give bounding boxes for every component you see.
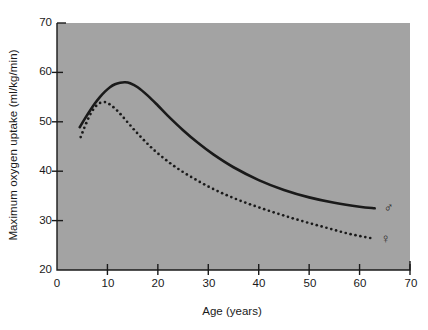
plot-area-background bbox=[57, 23, 410, 270]
chart-figure: Maximum oxygen uptake (ml/kg/min) 70 60 … bbox=[0, 0, 428, 330]
female-symbol-marker: ♀ bbox=[381, 231, 391, 246]
chart-plot-svg: ♂ ♀ bbox=[0, 0, 428, 330]
male-symbol-marker: ♂ bbox=[384, 200, 394, 215]
